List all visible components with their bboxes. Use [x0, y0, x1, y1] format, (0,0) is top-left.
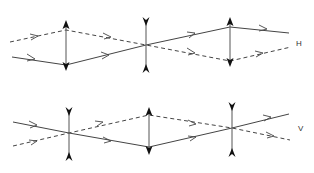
- direction-arrow-icon: [27, 25, 267, 61]
- diverging-lens-icon: [229, 102, 236, 157]
- plane-label-v: V: [298, 124, 304, 133]
- lens-ray-diagram: H V: [0, 0, 314, 173]
- converging-lens-icon: [63, 20, 70, 71]
- dashed-ray-h: [10, 30, 291, 61]
- plane-label-h: H: [296, 39, 302, 48]
- direction-arrow-icon: [29, 115, 274, 145]
- converging-lens-icon: [146, 107, 153, 155]
- converging-lens-icon: [227, 17, 234, 67]
- vertical-plane: V: [13, 102, 304, 161]
- diverging-lens-icon: [66, 107, 73, 161]
- solid-ray-v: [13, 114, 289, 147]
- horizontal-plane: H: [10, 17, 302, 73]
